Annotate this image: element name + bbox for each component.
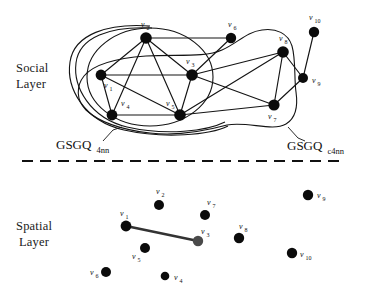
spatial-nodes: v 1 v 2 v 3 v 4 bbox=[90, 187, 326, 284]
node-v3-sub: 3 bbox=[192, 62, 195, 68]
spatial-node-v5[interactable]: v 5 bbox=[132, 243, 150, 263]
node-v8-label: v bbox=[279, 34, 283, 43]
node-v2-sub: 2 bbox=[147, 25, 150, 31]
spatial-node-v4-sub: 4 bbox=[180, 278, 183, 284]
node-v4-label: v bbox=[121, 99, 125, 108]
spatial-layer-line2: Layer bbox=[19, 235, 50, 249]
spatial-node-v9-label: v bbox=[317, 191, 321, 200]
social-layer-line1: Social bbox=[16, 61, 49, 75]
spatial-node-v9[interactable]: v 9 bbox=[303, 190, 326, 202]
node-v10-sub: 10 bbox=[315, 18, 321, 24]
spatial-node-v7[interactable]: v 7 bbox=[200, 198, 216, 220]
spatial-node-v1-sub: 1 bbox=[126, 214, 129, 220]
spatial-node-v3-label: v bbox=[201, 227, 205, 236]
node-v2[interactable]: v 2 bbox=[140, 20, 152, 44]
spatial-node-v6-sub: 6 bbox=[96, 273, 99, 279]
node-v9-sub: 9 bbox=[318, 81, 321, 87]
spatial-node-v4-label: v bbox=[174, 273, 178, 282]
node-v7-sub: 7 bbox=[274, 117, 277, 123]
node-v3[interactable]: v 3 bbox=[186, 57, 198, 81]
gsgq-c4nn-annotation: GSGQ c4nn bbox=[287, 127, 345, 156]
social-layer-group: v 1 v 2 v 3 v 4 bbox=[16, 13, 345, 156]
node-v1-label: v bbox=[104, 81, 108, 90]
gsgq-4nn-base: GSGQ bbox=[56, 137, 92, 152]
spatial-node-v3-sub: 3 bbox=[207, 232, 210, 238]
node-v4-sub: 4 bbox=[127, 104, 130, 110]
spatial-node-v1[interactable]: v 1 bbox=[120, 209, 131, 231]
spatial-node-v5-label: v bbox=[132, 252, 136, 261]
social-nodes: v 1 v 2 v 3 v 4 bbox=[96, 13, 321, 123]
gsgq-c4nn-base: GSGQ bbox=[287, 138, 323, 153]
spatial-node-v8[interactable]: v 8 bbox=[234, 222, 248, 243]
spatial-node-v10[interactable]: v 10 bbox=[287, 248, 312, 261]
spatial-node-v6[interactable]: v 6 bbox=[90, 267, 111, 279]
node-v1-sub: 1 bbox=[110, 86, 113, 92]
node-v8-sub: 8 bbox=[285, 39, 288, 45]
spatial-node-v3[interactable]: v 3 bbox=[193, 227, 210, 246]
two-layer-graph-figure: v 1 v 2 v 3 v 4 bbox=[0, 0, 369, 294]
figure-canvas: v 1 v 2 v 3 v 4 bbox=[0, 0, 369, 294]
spatial-node-v8-label: v bbox=[239, 222, 243, 231]
spatial-node-v7-sub: 7 bbox=[213, 203, 216, 209]
node-v5-label: v bbox=[166, 99, 170, 108]
spatial-node-v1-label: v bbox=[120, 209, 124, 218]
spatial-node-v2[interactable]: v 2 bbox=[154, 187, 165, 210]
node-v2-label: v bbox=[141, 20, 145, 29]
node-v9[interactable]: v 9 bbox=[298, 73, 321, 87]
social-edges bbox=[101, 32, 314, 115]
social-layer-line2: Layer bbox=[16, 77, 47, 91]
spatial-edges bbox=[126, 226, 198, 241]
spatial-node-v9-sub: 9 bbox=[323, 196, 326, 202]
spatial-layer-group: v 1 v 2 v 3 v 4 bbox=[16, 187, 326, 284]
spatial-node-v5-sub: 5 bbox=[138, 257, 141, 263]
spatial-layer-caption: Spatial Layer bbox=[16, 219, 52, 249]
spatial-node-v7-label: v bbox=[207, 198, 211, 207]
gsgq-4nn-sub: 4nn bbox=[97, 145, 111, 155]
social-layer-caption: Social Layer bbox=[16, 61, 49, 91]
node-v6-label: v bbox=[228, 20, 232, 29]
node-v6[interactable]: v 6 bbox=[226, 20, 237, 43]
spatial-node-v6-label: v bbox=[90, 268, 94, 277]
node-v7-label: v bbox=[268, 112, 272, 121]
node-v3-label: v bbox=[186, 57, 190, 66]
spatial-node-v4[interactable]: v 4 bbox=[161, 272, 183, 284]
node-v8[interactable]: v 8 bbox=[277, 34, 289, 58]
spatial-node-v2-sub: 2 bbox=[162, 192, 165, 198]
spatial-node-v8-sub: 8 bbox=[245, 227, 248, 233]
node-v10[interactable]: v 10 bbox=[309, 13, 321, 37]
node-v7[interactable]: v 7 bbox=[268, 99, 280, 122]
spatial-node-v2-label: v bbox=[156, 187, 160, 196]
gsgq-c4nn-sub: c4nn bbox=[328, 146, 345, 156]
gsgq-4nn-annotation: GSGQ 4nn bbox=[56, 127, 122, 155]
node-v10-label: v bbox=[309, 13, 313, 22]
node-v1[interactable]: v 1 bbox=[96, 70, 113, 92]
node-v6-sub: 6 bbox=[234, 25, 237, 31]
node-v5-sub: 5 bbox=[172, 104, 175, 110]
spatial-layer-line1: Spatial bbox=[16, 219, 52, 233]
node-v9-label: v bbox=[312, 76, 316, 85]
spatial-node-v10-sub: 10 bbox=[306, 255, 312, 261]
spatial-node-v10-label: v bbox=[300, 250, 304, 259]
